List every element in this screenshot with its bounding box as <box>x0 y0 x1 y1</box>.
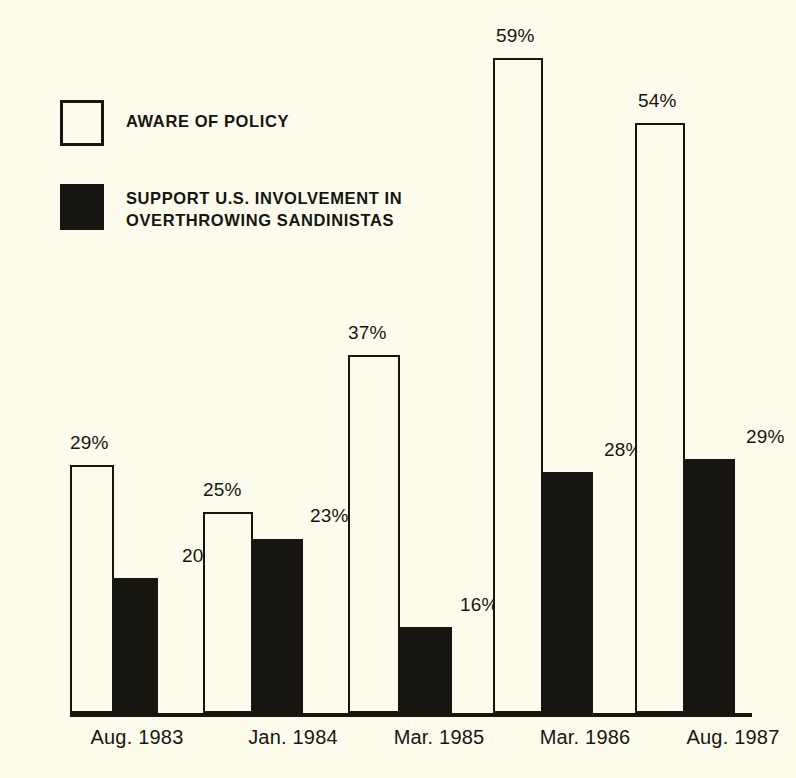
bar-aug-1987-series-1 <box>685 459 735 713</box>
bar-chart-figure: AWARE OF POLICY SUPPORT U.S. INVOLVEMENT… <box>0 0 796 778</box>
bar-mar-1985-series-0 <box>348 355 400 713</box>
bar-aug-1983-series-0 <box>70 465 114 713</box>
bar-value-label: 37% <box>348 322 387 344</box>
x-tick-label: Aug. 1987 <box>668 726 796 749</box>
plot-area: 29%20%25%23%37%16%59%28%54%29% <box>0 0 796 778</box>
bar-value-label: 59% <box>496 25 535 47</box>
bar-jan-1984-series-0 <box>203 512 253 713</box>
bar-value-label: 29% <box>746 426 785 448</box>
x-axis-line <box>70 713 752 717</box>
bar-mar-1986-series-0 <box>493 58 543 713</box>
bar-value-label: 29% <box>70 432 109 454</box>
bar-value-label: 23% <box>310 505 349 527</box>
bar-value-label: 54% <box>638 90 677 112</box>
bar-jan-1984-series-1 <box>253 539 303 713</box>
x-tick-label: Mar. 1986 <box>520 726 650 749</box>
bar-mar-1985-series-1 <box>400 627 452 713</box>
bar-aug-1987-series-0 <box>635 123 685 713</box>
x-tick-label: Mar. 1985 <box>374 726 504 749</box>
bar-mar-1986-series-1 <box>543 472 593 713</box>
x-tick-label: Jan. 1984 <box>228 726 358 749</box>
bar-aug-1983-series-1 <box>114 578 158 713</box>
x-tick-label: Aug. 1983 <box>72 726 202 749</box>
bar-value-label: 25% <box>203 479 242 501</box>
